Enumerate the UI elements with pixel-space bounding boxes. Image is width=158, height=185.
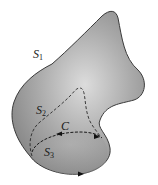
label-s1: S1 [33,48,43,62]
surface-diagram [0,0,158,185]
label-c: C [61,120,69,132]
label-s2: S2 [36,104,46,118]
label-s3: S3 [44,146,54,160]
